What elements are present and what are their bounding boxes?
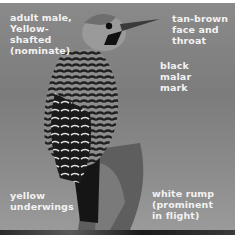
- label-face-throat: tan-brown face and throat: [172, 13, 228, 46]
- label-white-rump: white rump (prominent in flight): [152, 188, 214, 221]
- label-adult-male: adult male, Yellow- shafted (nominate): [10, 12, 72, 56]
- beak: [120, 19, 160, 31]
- label-malar-mark: black malar mark: [160, 60, 191, 93]
- bird-photo: adult male, Yellow- shafted (nominate) t…: [0, 3, 235, 230]
- eye: [106, 23, 112, 29]
- label-underwings: yellow underwings: [10, 190, 74, 212]
- next-photo-strip: [0, 230, 235, 235]
